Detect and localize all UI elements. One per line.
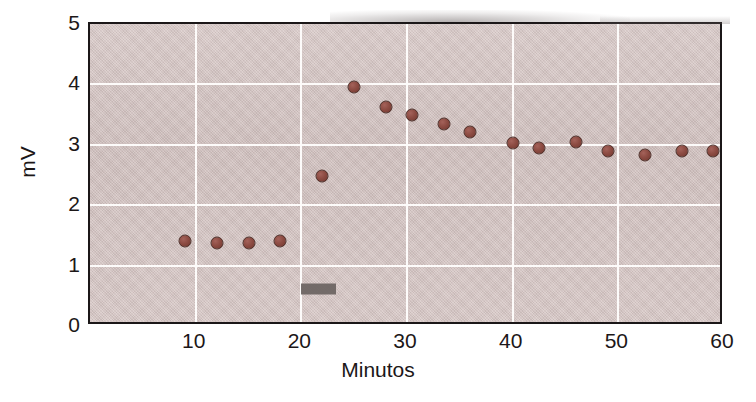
x-tick-label-30: 30 [393,330,416,351]
data-point [316,170,329,183]
data-point [179,235,192,248]
scatter-chart-figure: 012345 mV 102030405060 Minutos [0,0,756,402]
x-tick-label-10: 10 [182,330,205,351]
data-point [348,81,361,94]
data-point [675,144,688,157]
gridline-y-1 [90,265,720,267]
gridline-y-2 [90,204,720,206]
gridline-x-40 [512,24,514,322]
x-tick-label-50: 50 [605,330,628,351]
data-point [379,100,392,113]
stimulus-bar [301,283,336,294]
data-point [406,108,419,121]
data-point [210,236,223,249]
plot-area [88,22,722,324]
data-point [601,144,614,157]
gridline-y-4 [90,83,720,85]
x-axis-tick-labels: 102030405060 [88,330,722,358]
data-point [464,125,477,138]
y-tick-label-4: 4 [50,72,80,93]
gridline-x-20 [300,24,302,322]
data-point [570,135,583,148]
data-point [707,144,720,157]
y-axis-tick-labels: 012345 [48,22,80,324]
data-point [437,117,450,130]
gridline-x-50 [617,24,619,322]
scan-artifact-top [330,10,630,22]
data-point [274,235,287,248]
x-axis-title: Minutos [0,358,756,382]
y-tick-label-1: 1 [50,253,80,274]
data-point [533,141,546,154]
x-tick-label-60: 60 [710,330,733,351]
x-tick-label-40: 40 [499,330,522,351]
gridline-y-3 [90,144,720,146]
x-tick-label-20: 20 [288,330,311,351]
gridline-x-10 [195,24,197,322]
y-tick-label-2: 2 [50,193,80,214]
y-tick-label-0: 0 [50,314,80,335]
data-point [242,236,255,249]
y-tick-label-3: 3 [50,132,80,153]
y-tick-label-5: 5 [50,12,80,33]
data-point [638,149,651,162]
gridline-x-30 [406,24,408,322]
data-point [506,136,519,149]
y-axis-title: mV [16,134,40,190]
